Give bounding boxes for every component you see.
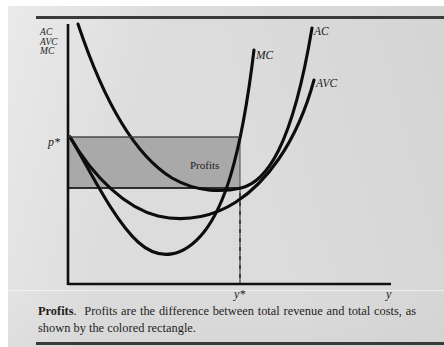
x-axis-name-label: y	[386, 288, 391, 300]
caption-text: Profits are the difference between total…	[38, 304, 416, 335]
plot-svg	[8, 6, 444, 306]
y-axis-legend-mc: MC	[40, 47, 58, 57]
caption-title: Profits	[38, 304, 74, 318]
total-cost-rectangle	[68, 188, 240, 284]
ac-curve-label: AC	[314, 26, 329, 38]
scanned-page-panel: AC AVC MC p* y* y MC AC AVC Profits Prof…	[8, 6, 444, 347]
profits-region-label: Profits	[190, 160, 219, 171]
cost-curves-plot: AC AVC MC p* y* y MC AC AVC Profits	[8, 6, 444, 306]
figure-caption: Profits. Profits are the difference betw…	[38, 303, 416, 337]
bottom-horizontal-rule	[36, 342, 444, 345]
caption-separator: .	[74, 304, 77, 318]
figure-page: AC AVC MC p* y* y MC AC AVC Profits Prof…	[0, 0, 444, 347]
mc-curve-label: MC	[256, 50, 273, 62]
avc-curve-label: AVC	[316, 78, 337, 90]
y-axis-legend: AC AVC MC	[40, 28, 58, 57]
quantity-star-label: y*	[234, 288, 245, 300]
price-star-label: p*	[48, 136, 60, 148]
